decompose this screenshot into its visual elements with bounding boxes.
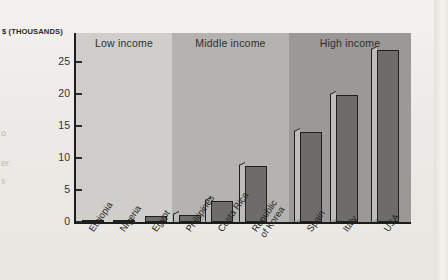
band-label-middle-income: Middle income (172, 36, 289, 50)
bar-italy (336, 91, 358, 222)
y-tick-label-20: 20 (44, 87, 70, 99)
band-low-income (76, 33, 172, 222)
y-axis-unit-label: $ (THOUSANDS) (2, 27, 63, 36)
bar-front-face (377, 50, 399, 222)
bar-front-face (336, 95, 358, 222)
y-tick-25 (76, 61, 82, 62)
y-tick-20 (76, 93, 82, 94)
y-tick-label-5: 5 (44, 183, 70, 195)
y-tick-5 (76, 189, 82, 190)
bar-usa (377, 46, 399, 222)
margin-fragment-1: o (1, 128, 6, 138)
margin-fragment-2: er (1, 158, 9, 168)
y-tick-label-10: 10 (44, 151, 70, 163)
y-tick-label-0: 0 (44, 215, 70, 227)
y-tick-label-15: 15 (44, 119, 70, 131)
bar-chart: Low income Middle income High income $ (… (0, 0, 448, 280)
band-middle-income (172, 33, 289, 222)
y-tick-15 (76, 125, 82, 126)
y-tick-10 (76, 157, 82, 158)
y-tick-label-25: 25 (44, 55, 70, 67)
margin-fragment-3: s (1, 176, 6, 186)
band-label-low-income: Low income (76, 36, 172, 50)
